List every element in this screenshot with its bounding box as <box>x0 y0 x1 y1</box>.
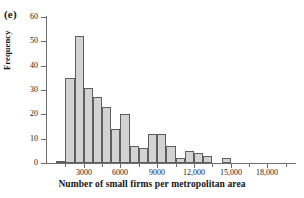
x-minor-tick-10500 <box>176 164 177 167</box>
x-minor-tick-19500 <box>286 164 287 167</box>
histogram-bar <box>157 134 166 163</box>
x-tick-label-18000: 18,000 <box>256 169 278 177</box>
y-tick-label-30: 30 <box>0 86 38 94</box>
y-tick-label-50: 50 <box>0 37 38 45</box>
y-tick-label-20: 20 <box>0 110 38 118</box>
histogram-figure: (e) Frequency Number of small firms per … <box>0 0 304 198</box>
x-minor-tick-13500 <box>212 164 213 167</box>
x-tick-label-15000: 15,000 <box>220 169 242 177</box>
histogram-bar <box>93 97 102 163</box>
y-tick-10 <box>41 139 46 140</box>
x-minor-tick-1500 <box>65 164 66 167</box>
histogram-bar <box>185 151 194 163</box>
histogram-bar <box>176 158 185 163</box>
histogram-bar <box>139 148 148 163</box>
y-tick-20 <box>41 114 46 115</box>
histogram-bar <box>203 156 212 163</box>
y-tick-40 <box>41 66 46 67</box>
histogram-bar <box>111 129 120 163</box>
y-tick-label-10: 10 <box>0 135 38 143</box>
x-minor-tick-16500 <box>249 164 250 167</box>
histogram-bar <box>102 107 111 163</box>
x-tick-label-3000: 3000 <box>76 169 92 177</box>
histogram-bar <box>166 146 175 163</box>
x-minor-tick-7500 <box>139 164 140 167</box>
y-tick-label-60: 60 <box>0 13 38 21</box>
x-tick-label-12000: 12,000 <box>183 169 205 177</box>
histogram-bar <box>194 153 203 163</box>
y-tick-30 <box>41 90 46 91</box>
y-tick-label-40: 40 <box>0 62 38 70</box>
histogram-bar <box>130 146 139 163</box>
histogram-bar <box>222 158 231 163</box>
x-tick-label-9000: 9000 <box>149 169 165 177</box>
histogram-bar <box>56 161 65 163</box>
y-tick-60 <box>41 17 46 18</box>
histogram-bar <box>120 114 129 163</box>
histogram-bar <box>84 88 93 163</box>
x-minor-tick-4500 <box>102 164 103 167</box>
histogram-bar <box>75 36 84 163</box>
y-tick-label-0: 0 <box>0 159 38 167</box>
y-tick-0 <box>41 163 46 164</box>
histogram-bar <box>148 134 157 163</box>
y-tick-50 <box>41 41 46 42</box>
plot-area <box>47 17 295 163</box>
histogram-bar <box>65 78 74 163</box>
x-axis-title: Number of small firms per metropolitan a… <box>0 180 304 190</box>
x-tick-label-6000: 6000 <box>112 169 128 177</box>
